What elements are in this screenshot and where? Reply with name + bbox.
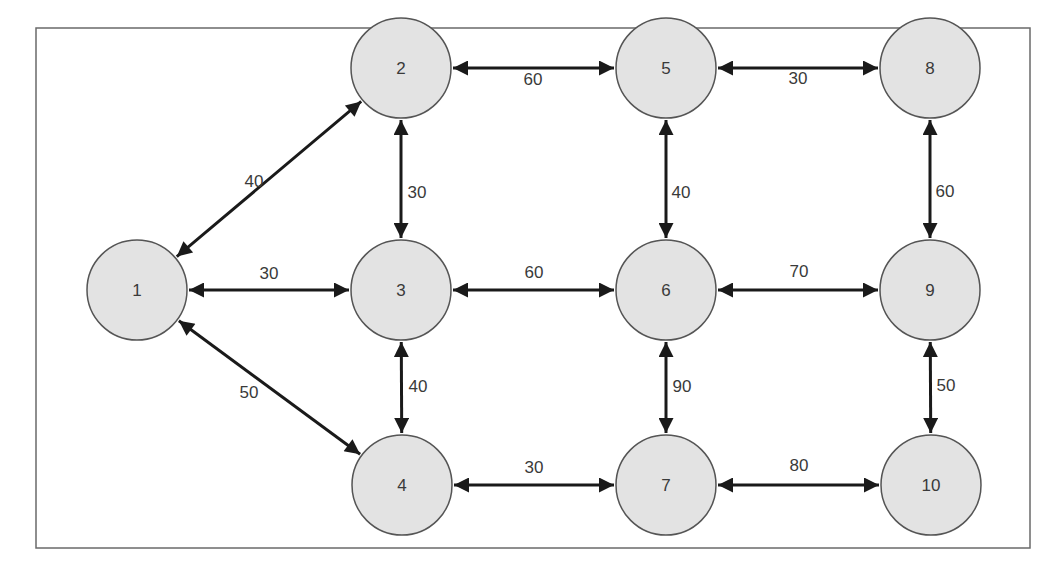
edge-weight-label: 40 [672,183,691,202]
double-arrow-icon [177,101,361,256]
node-4: 4 [352,435,452,535]
edge-weight-label: 30 [789,69,808,88]
node-label: 2 [396,59,405,78]
node-10: 10 [881,435,981,535]
edge-8-9: 60 [930,120,954,238]
node-label: 6 [661,281,670,300]
node-2: 2 [351,18,451,118]
edge-3-4: 40 [401,342,427,433]
node-7: 7 [616,435,716,535]
edge-weight-label: 90 [673,377,692,396]
edge-weight-label: 30 [260,264,279,283]
edge-weight-label: 50 [240,383,259,402]
node-label: 10 [922,476,941,495]
node-6: 6 [616,240,716,340]
node-label: 5 [661,59,670,78]
node-label: 8 [925,59,934,78]
edge-weight-label: 60 [525,263,544,282]
edge-weight-label: 70 [790,262,809,281]
edge-weight-label: 60 [524,70,543,89]
edge-5-6: 40 [666,120,690,238]
edge-2-3: 30 [401,120,426,238]
edge-7-10: 80 [718,456,879,486]
network-diagram: 403050304060603040903070806050 123456789… [0,0,1056,564]
edge-6-7: 90 [666,342,691,433]
edge-weight-label: 30 [408,183,427,202]
node-5: 5 [616,18,716,118]
edge-3-6: 60 [453,263,614,291]
node-3: 3 [351,240,451,340]
node-label: 4 [397,476,406,495]
edge-weight-label: 80 [790,456,809,475]
edge-6-9: 70 [718,262,878,291]
edge-weight-label: 50 [937,376,956,395]
edge-weight-label: 60 [936,182,955,201]
edge-weight-label: 30 [525,458,544,477]
node-label: 7 [661,476,670,495]
node-label: 1 [132,281,141,300]
node-label: 9 [925,281,934,300]
edge-1-2: 40 [177,101,361,256]
node-1: 1 [87,240,187,340]
edge-9-10: 50 [930,342,955,433]
edge-1-3: 30 [189,264,349,291]
edge-weight-label: 40 [409,377,428,396]
double-arrow-icon [179,321,360,454]
edge-5-8: 30 [718,68,878,88]
edge-2-5: 60 [453,68,614,89]
node-label: 3 [396,281,405,300]
edges-layer: 403050304060603040903070806050 [177,68,956,485]
edge-weight-label: 40 [245,172,264,191]
node-8: 8 [880,18,980,118]
edge-4-7: 30 [454,458,614,486]
node-9: 9 [880,240,980,340]
edge-1-4: 50 [179,321,360,454]
